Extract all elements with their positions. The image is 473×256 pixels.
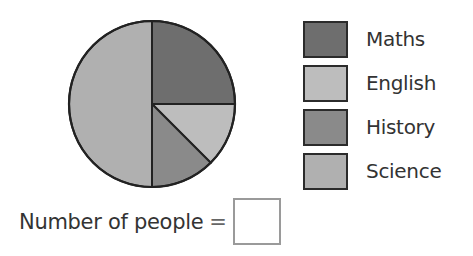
answer-input-box[interactable] [233,198,281,245]
answer-row: Number of people = [19,198,281,245]
legend-label-history: History [366,115,435,139]
legend-swatch-science [303,153,348,190]
equals-sign: = [209,210,227,234]
pie-slice-maths [152,21,235,104]
legend-label-maths: Maths [366,27,425,51]
legend-swatch-history [303,109,348,146]
legend-item-history: History [303,109,435,145]
legend-item-maths: Maths [303,21,425,57]
legend-label-science: Science [366,159,441,183]
legend-swatch-english [303,65,348,102]
legend-item-science: Science [303,153,441,189]
question-label: Number of people [19,210,203,234]
legend-item-english: English [303,65,436,101]
pie-slice-science [69,21,152,187]
legend-swatch-maths [303,21,348,58]
legend-label-english: English [366,71,436,95]
